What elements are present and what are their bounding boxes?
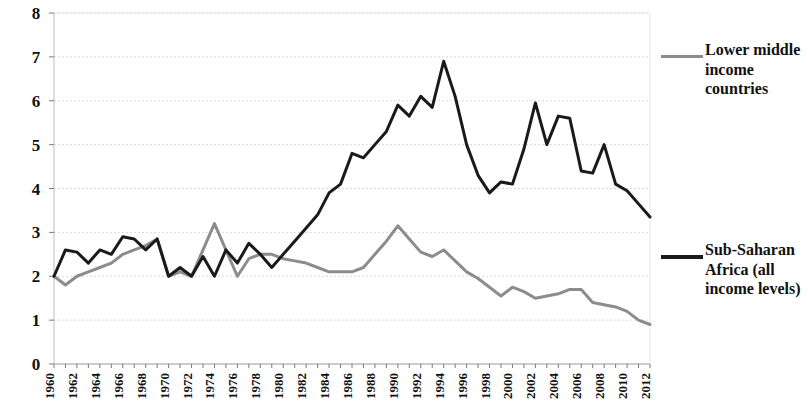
x-axis-label: 1990 [386, 373, 401, 399]
series-line-sub-saharan-africa [54, 61, 650, 276]
x-axis-label: 2006 [569, 373, 584, 400]
chart-container: 012345678 196019621964196619681970197219… [0, 0, 808, 415]
x-axis-label: 1964 [88, 373, 103, 400]
x-axis-label: 1982 [294, 373, 309, 399]
x-axis-tick-labels: 1960196219641966196819701972197419761978… [42, 373, 653, 400]
x-axis-label: 1996 [455, 373, 470, 400]
x-axis-label: 1962 [65, 373, 80, 399]
grid-lines [54, 13, 650, 320]
x-axis-label: 1972 [180, 373, 195, 399]
x-axis-label: 1992 [409, 373, 424, 399]
x-axis-label: 1960 [42, 373, 57, 399]
x-axis-label: 1980 [271, 373, 286, 399]
y-axis-label: 2 [32, 267, 41, 286]
x-axis-label: 1984 [317, 373, 332, 400]
line-chart: 012345678 196019621964196619681970197219… [0, 0, 808, 415]
legend-swatch-sub-saharan-africa [661, 255, 703, 259]
x-axis-label: 1974 [202, 373, 217, 400]
x-axis-label: 2002 [523, 373, 538, 399]
x-axis-label: 2004 [546, 373, 561, 400]
x-axis-label: 1988 [363, 373, 378, 400]
y-axis-label: 6 [32, 92, 41, 111]
y-axis-label: 3 [32, 223, 41, 242]
x-axis-label: 1986 [340, 373, 355, 400]
y-axis-label: 5 [32, 136, 41, 155]
x-axis-label: 1968 [134, 373, 149, 400]
y-axis-label: 1 [32, 311, 41, 330]
y-axis-label: 7 [32, 48, 41, 67]
y-axis-tick-labels: 012345678 [32, 4, 41, 374]
x-axis-tick-marks [49, 13, 650, 368]
x-axis-label: 2012 [638, 373, 653, 399]
series-line-lower-middle-income [54, 224, 650, 325]
y-axis-label: 4 [32, 180, 41, 199]
x-axis-label: 2000 [500, 373, 515, 399]
x-axis-label: 1966 [111, 373, 126, 400]
x-axis-label: 2008 [592, 373, 607, 400]
x-axis-label: 1998 [478, 373, 493, 400]
x-axis-label: 1978 [248, 373, 263, 400]
x-axis-label: 1994 [432, 373, 447, 400]
x-axis-label: 2010 [615, 373, 630, 399]
legend-label-lower-middle-income: Lower middle income countries [705, 40, 808, 99]
y-axis-label: 8 [32, 4, 41, 23]
legend-label-sub-saharan-africa: Sub-Saharan Africa (all income levels) [705, 240, 808, 299]
y-axis-label: 0 [32, 355, 41, 374]
legend-swatch-lower-middle-income [661, 55, 703, 58]
x-axis-label: 1976 [225, 373, 240, 400]
x-axis-label: 1970 [157, 373, 172, 399]
